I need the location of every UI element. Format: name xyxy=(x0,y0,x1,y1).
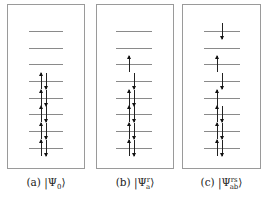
energy-level-c-5 xyxy=(204,98,240,99)
caption-a: (a) |Ψ0⟩ xyxy=(7,176,85,188)
spin-down-arrow-icon xyxy=(134,106,135,122)
energy-level-c-3 xyxy=(204,64,240,65)
caption-b-prefix: (b) xyxy=(116,176,131,188)
energy-level-a-1 xyxy=(29,31,63,32)
spin-down-arrow-icon xyxy=(46,106,47,122)
spin-down-arrow-icon xyxy=(46,73,47,89)
spin-down-arrow-icon xyxy=(46,123,47,139)
spin-up-arrow-icon xyxy=(217,140,218,156)
caption-b-close: ⟩ xyxy=(150,176,154,188)
caption-c: (c) |Ψrsab⟩ xyxy=(182,176,261,188)
caption-c-close: ⟩ xyxy=(238,176,242,188)
spin-up-arrow-icon xyxy=(41,140,42,156)
energy-level-c-2 xyxy=(204,48,240,49)
caption-b-state: |Ψ xyxy=(134,176,147,188)
spin-down-arrow-icon xyxy=(222,106,223,122)
spin-up-arrow-icon xyxy=(217,106,218,122)
spin-up-arrow-icon xyxy=(41,73,42,89)
energy-level-b-1 xyxy=(116,31,152,32)
caption-b: (b) |Ψra⟩ xyxy=(96,176,174,188)
spin-up-arrow-icon xyxy=(217,90,218,106)
energy-level-b-2 xyxy=(116,48,152,49)
spin-up-arrow-icon xyxy=(129,56,130,72)
spin-down-arrow-icon xyxy=(134,140,135,156)
spin-up-arrow-icon xyxy=(129,123,130,139)
spin-up-arrow-icon xyxy=(129,106,130,122)
spin-up-arrow-icon xyxy=(41,90,42,106)
energy-level-a-2 xyxy=(29,48,63,49)
spin-up-arrow-icon xyxy=(217,123,218,139)
spin-down-arrow-icon xyxy=(222,73,223,89)
spin-down-arrow-icon xyxy=(222,140,223,156)
caption-c-state: |Ψ xyxy=(218,176,231,188)
energy-level-a-3 xyxy=(29,64,63,65)
spin-down-arrow-icon xyxy=(134,73,135,89)
spin-down-arrow-icon xyxy=(222,23,223,39)
spin-down-arrow-icon xyxy=(46,140,47,156)
caption-a-close: ⟩ xyxy=(61,176,65,188)
caption-a-prefix: (a) xyxy=(26,176,40,188)
caption-c-prefix: (c) xyxy=(201,176,215,188)
spin-up-arrow-icon xyxy=(41,106,42,122)
spin-up-arrow-icon xyxy=(217,56,218,72)
spin-down-arrow-icon xyxy=(134,90,135,106)
spin-up-arrow-icon xyxy=(129,140,130,156)
spin-up-arrow-icon xyxy=(129,90,130,106)
caption-a-state: |Ψ xyxy=(44,176,57,188)
spin-down-arrow-icon xyxy=(222,123,223,139)
spin-down-arrow-icon xyxy=(46,90,47,106)
spin-down-arrow-icon xyxy=(134,123,135,139)
spin-up-arrow-icon xyxy=(41,123,42,139)
energy-level-b-3 xyxy=(116,64,152,65)
